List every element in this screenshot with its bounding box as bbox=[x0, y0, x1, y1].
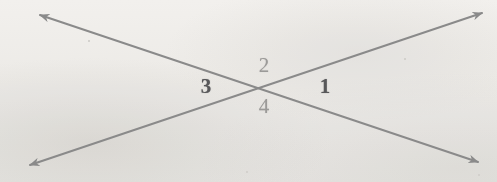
geometry-figure: 2 3 1 4 bbox=[0, 0, 497, 182]
angle-label-4: 4 bbox=[259, 96, 270, 117]
angle-label-1: 1 bbox=[320, 76, 331, 97]
line-sw-ne bbox=[30, 13, 482, 165]
angle-label-3: 3 bbox=[201, 76, 212, 97]
angle-label-2: 2 bbox=[259, 55, 270, 76]
intersecting-lines-drawing bbox=[0, 0, 497, 182]
